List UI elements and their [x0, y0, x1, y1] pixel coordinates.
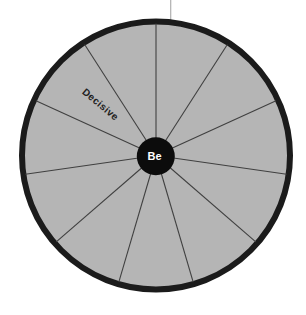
wheel-stage: Decisive Be — [0, 0, 306, 315]
wheel-canvas: Decisive Be — [0, 0, 306, 315]
hub-label: Be — [147, 150, 161, 162]
